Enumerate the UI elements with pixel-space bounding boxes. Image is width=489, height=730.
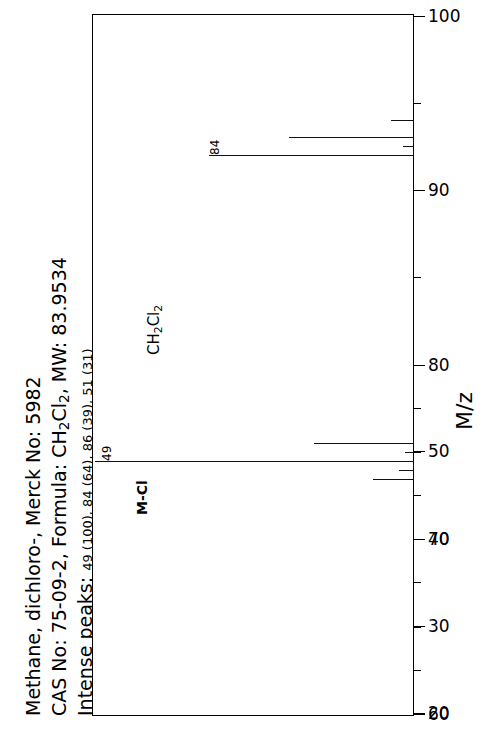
peak-bar-51 — [314, 443, 413, 444]
mz-axis-final: 40 30 20 — [414, 14, 489, 716]
peak-bar-48 — [399, 470, 413, 471]
mz-axis-title: M/z — [452, 392, 477, 430]
axis-tick-20-final — [414, 713, 425, 714]
mw-text: , MW: 83.9534 — [48, 257, 70, 394]
formula-annotation-mid: Cl — [145, 312, 163, 327]
peak-bar-84 — [209, 155, 413, 156]
formula-annotation-sub1: 2 — [152, 326, 165, 333]
formula-subscript-1: 2 — [56, 422, 72, 431]
cas-formula-prefix: CAS No: 75-09-2, Formula: CH — [48, 430, 70, 716]
fragment-annotation: M-Cl — [134, 480, 150, 515]
compound-title: Methane, dichloro-, Merck No: 5982 — [22, 376, 44, 716]
formula-mid: Cl — [48, 403, 70, 422]
axis-tick-35-final — [414, 582, 421, 583]
mass-spectrum-figure: Methane, dichloro-, Merck No: 5982 CAS N… — [0, 0, 489, 730]
peak-bar-49 — [95, 461, 413, 462]
axis-tick-label-30: 30 — [428, 616, 450, 636]
axis-tick-label-20: 20 — [428, 703, 450, 723]
peak-bar-47 — [373, 479, 413, 480]
formula-subscript-2: 2 — [56, 394, 72, 403]
formula-annotation: CH2Cl2 — [145, 305, 165, 355]
formula-annotation-prefix: CH — [145, 333, 163, 355]
axis-tick-25-final — [414, 670, 421, 671]
axis-tick-40-final — [414, 539, 425, 540]
peak-label-84: 84 — [208, 140, 222, 155]
axis-tick-30-final — [414, 626, 425, 627]
peak-bar-88 — [391, 120, 413, 121]
formula-annotation-sub2: 2 — [152, 305, 165, 312]
spectrum-plot-area: 84 49 CH2Cl2 M-Cl — [92, 14, 414, 716]
compound-info-line: CAS No: 75-09-2, Formula: CH2Cl2, MW: 83… — [48, 257, 72, 716]
peak-bar-85 — [403, 146, 413, 147]
peak-bar-86 — [289, 137, 413, 138]
peak-bar-50 — [405, 452, 413, 453]
cropped-header-text — [150, 0, 410, 6]
axis-tick-label-40: 40 — [428, 529, 450, 549]
peak-label-49: 49 — [100, 446, 114, 461]
